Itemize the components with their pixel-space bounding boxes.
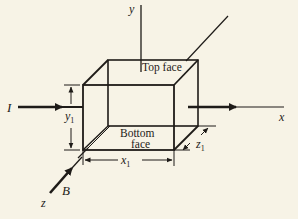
x1-dimension-label: x1 [121,154,130,169]
b-field-line [72,157,82,168]
bottom-face-label-line2: face [131,139,150,151]
z-axis-label: z [41,197,46,209]
z1-dim-down [183,143,190,150]
x-axis-label: x [279,111,284,123]
z1-dimension-label: z1 [196,138,205,153]
current-label: I [7,101,11,114]
top-face-label: Top face [142,62,182,74]
b-field-label: B [62,184,70,197]
y1-dimension-label: y1 [65,110,74,125]
y-axis-label: y [129,3,134,15]
edge-bottom-left [83,126,108,150]
z-axis-back [186,16,228,61]
z1-dim-up [201,128,208,135]
front-face [83,85,174,150]
hall-effect-diagram: y x z I B Top face Bottom face y1 x1 z1 [0,0,298,219]
diagram-drawing [0,0,298,219]
edge-top-left [83,60,108,85]
z-axis-inner [86,126,110,150]
